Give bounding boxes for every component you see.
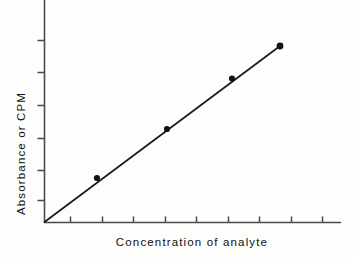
data-point: [94, 175, 100, 181]
plot-canvas: [0, 0, 354, 257]
data-point-markers: [94, 43, 284, 182]
x-axis-ticks: [71, 217, 323, 223]
data-point: [229, 75, 235, 81]
y-axis-label-container: Absorbance or CPM: [12, 0, 34, 222]
x-axis-label: Concentration of analyte: [0, 236, 354, 248]
y-axis-label: Absorbance or CPM: [15, 92, 27, 215]
data-point: [277, 43, 284, 50]
data-point: [164, 126, 170, 132]
y-axis-ticks: [38, 41, 45, 201]
calibration-curve-figure: Absorbance or CPM Concentration of analy…: [0, 0, 354, 257]
standard-curve-line: [45, 45, 283, 223]
